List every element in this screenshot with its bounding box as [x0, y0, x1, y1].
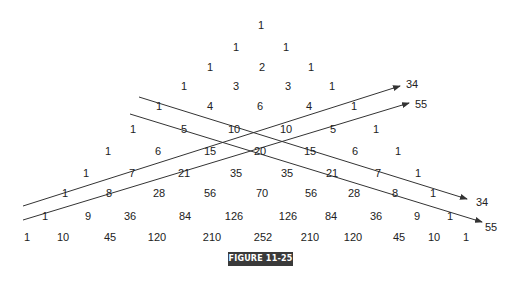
triangle-cell: 7 [375, 167, 381, 179]
triangle-cell: 10 [428, 231, 440, 243]
triangle-cell: 1 [415, 167, 421, 179]
triangle-cell: 1 [83, 167, 89, 179]
triangle-cell: 6 [257, 100, 263, 112]
triangle-cell: 120 [344, 231, 362, 243]
triangle-cell: 1 [42, 210, 48, 222]
triangle-cell: 1 [62, 187, 68, 199]
triangle-cell: 3 [233, 80, 239, 92]
triangle-cell: 20 [254, 145, 266, 157]
triangle-cell: 1 [308, 61, 314, 73]
figure-caption-label: FIGURE 11-25 [228, 252, 293, 266]
triangle-cell: 15 [204, 145, 216, 157]
triangle-cell: 3 [285, 80, 291, 92]
triangle-cell: 1 [181, 80, 187, 92]
diagonal-up-34-label: 34 [406, 78, 418, 90]
triangle-cell: 5 [330, 123, 336, 135]
triangle-cell: 210 [203, 231, 221, 243]
triangle-cell: 56 [305, 187, 317, 199]
triangle-cell: 10 [57, 231, 69, 243]
triangle-cell: 4 [306, 100, 312, 112]
triangle-cell: 84 [325, 210, 337, 222]
triangle-cell: 10 [228, 123, 240, 135]
triangle-cell: 1 [24, 231, 30, 243]
triangle-cell: 1 [258, 19, 264, 31]
triangle-cell: 210 [301, 231, 319, 243]
triangle-cell: 35 [230, 167, 242, 179]
triangle-cell: 15 [304, 145, 316, 157]
triangle-cell: 21 [178, 167, 190, 179]
triangle-cell: 36 [124, 210, 136, 222]
triangle-cell: 45 [393, 231, 405, 243]
triangle-cell: 126 [225, 210, 243, 222]
triangle-cell: 1 [351, 100, 357, 112]
triangle-cell: 4 [207, 100, 213, 112]
triangle-cell: 10 [280, 123, 292, 135]
triangle-cell: 84 [179, 210, 191, 222]
triangle-cell: 126 [279, 210, 297, 222]
triangle-cell: 28 [153, 187, 165, 199]
triangle-cell: 6 [155, 145, 161, 157]
triangle-cell: 7 [129, 167, 135, 179]
triangle-cell: 1 [156, 100, 162, 112]
triangle-cell: 1 [105, 145, 111, 157]
triangle-cell: 1 [207, 61, 213, 73]
pascal-triangle-diagram: 1111211331146411510105116152015611721353… [0, 0, 516, 284]
triangle-cell: 36 [370, 210, 382, 222]
triangle-cell: 1 [233, 41, 239, 53]
triangle-cell: 1 [130, 123, 136, 135]
triangle-cell: 70 [256, 187, 268, 199]
triangle-cell: 1 [329, 80, 335, 92]
triangle-cell: 6 [352, 145, 358, 157]
triangle-cell: 5 [181, 123, 187, 135]
triangle-cell: 9 [414, 210, 420, 222]
triangle-cell: 1 [463, 231, 469, 243]
diagonal-down-55-label: 55 [485, 221, 497, 233]
triangle-cell: 252 [254, 231, 272, 243]
triangle-cell: 56 [204, 187, 216, 199]
triangle-cell: 1 [395, 145, 401, 157]
triangle-cell: 1 [373, 123, 379, 135]
triangle-cell: 1 [447, 210, 453, 222]
triangle-cell: 9 [85, 210, 91, 222]
triangle-cell: 8 [392, 187, 398, 199]
triangle-cell: 21 [326, 167, 338, 179]
triangle-cell: 120 [148, 231, 166, 243]
triangle-cell: 1 [430, 187, 436, 199]
triangle-cell: 28 [348, 187, 360, 199]
triangle-cell: 35 [281, 167, 293, 179]
triangle-cell: 45 [104, 231, 116, 243]
diagonal-up-55-label: 55 [415, 98, 427, 110]
triangle-cell: 8 [106, 187, 112, 199]
triangle-cell: 1 [283, 41, 289, 53]
triangle-cell: 2 [259, 61, 265, 73]
diagonal-down-34-label: 34 [476, 196, 488, 208]
